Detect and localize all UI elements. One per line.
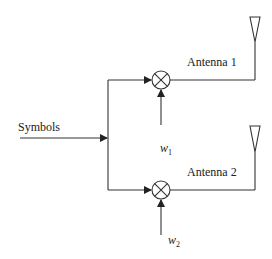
antenna-1-icon — [250, 17, 260, 42]
mixer-2-icon — [152, 181, 170, 199]
antenna-1-label: Antenna 1 — [187, 55, 237, 69]
weight-1-label: w1 — [160, 141, 172, 157]
beamforming-diagram: Symbols w1 Antenna 1 w2 Antenna 2 — [0, 0, 272, 259]
branch-2: w2 Antenna 2 — [108, 126, 260, 249]
antenna-2-label: Antenna 2 — [187, 165, 237, 179]
antenna-2-icon — [250, 126, 260, 152]
branch-1: w1 Antenna 1 — [108, 17, 260, 157]
mixer-1-icon — [152, 71, 170, 89]
symbols-label: Symbols — [18, 120, 60, 134]
weight-2-label: w2 — [168, 233, 180, 249]
